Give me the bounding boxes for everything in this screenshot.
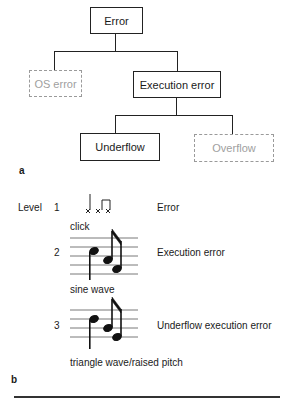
node-os-error: OS error <box>29 70 82 97</box>
meaning-level-1: Error <box>157 202 179 213</box>
connector <box>232 115 233 134</box>
node-overflow: Overflow <box>194 134 274 162</box>
node-error: Error <box>90 7 143 34</box>
connector <box>115 115 116 134</box>
node-overflow-label: Overflow <box>212 142 255 154</box>
node-underflow-label: Underflow <box>95 141 145 153</box>
click-notation-icon <box>82 192 122 222</box>
connector <box>54 51 55 70</box>
level-number-1: 1 <box>54 202 60 213</box>
panel-label-b: b <box>11 374 17 385</box>
node-os-error-label: OS error <box>34 78 76 90</box>
level-number-3: 3 <box>54 320 60 331</box>
connector <box>177 51 178 71</box>
level-number-2: 2 <box>54 247 60 258</box>
bottom-rule <box>14 396 280 398</box>
triangle-wave-notation-icon <box>68 296 140 352</box>
node-error-label: Error <box>104 15 128 27</box>
node-execution-error: Execution error <box>133 71 221 98</box>
level-header: Level <box>18 202 42 213</box>
sound-level-2: sine wave <box>70 284 114 295</box>
node-underflow: Underflow <box>80 133 160 161</box>
panel-label-a: a <box>19 165 25 176</box>
connector <box>176 98 177 116</box>
node-execution-error-label: Execution error <box>140 79 215 91</box>
connector <box>54 51 178 52</box>
connector <box>115 34 116 52</box>
connector <box>115 115 233 116</box>
meaning-level-2: Execution error <box>157 247 225 258</box>
sine-wave-notation-icon <box>68 228 140 284</box>
meaning-level-3: Underflow execution error <box>157 320 272 331</box>
sound-level-3: triangle wave/raised pitch <box>70 357 183 368</box>
